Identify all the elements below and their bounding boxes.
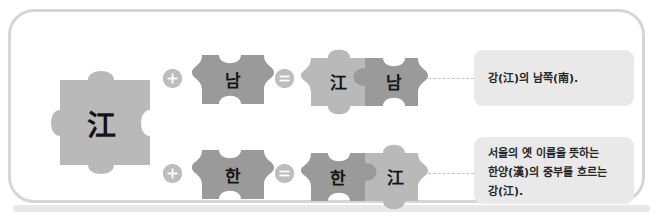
description-line: 강(江). — [488, 182, 620, 201]
description-line: 서울의 옛 이름을 뜻하는 — [488, 144, 620, 163]
result-puzzle-piece-row-1: 江 남 — [301, 40, 428, 123]
equals-circle-icon — [275, 69, 294, 88]
connector-line-row-2 — [428, 173, 474, 174]
description-line: 강(江)의 남쪽(南). — [488, 69, 578, 88]
source-puzzle-piece: 江 — [46, 60, 156, 185]
connector-line-row-1 — [428, 78, 474, 79]
operand-puzzle-piece-row-2: 한 — [192, 142, 274, 207]
result-puzzle-piece-row-2: 한 江 — [301, 135, 428, 218]
description-box-row-2: 서울의 옛 이름을 뜻하는 한양(漢)의 중부를 흐르는 강(江). — [474, 137, 634, 204]
description-line: 한양(漢)의 중부를 흐르는 — [488, 163, 620, 182]
plus-circle-icon — [163, 69, 182, 88]
description-box-row-1: 강(江)의 남쪽(南). — [474, 50, 634, 106]
operand-puzzle-piece-row-1: 남 — [192, 47, 274, 112]
plus-circle-icon — [163, 164, 182, 183]
diagram-frame: 江 남 — [8, 9, 645, 203]
equals-circle-icon — [275, 164, 294, 183]
